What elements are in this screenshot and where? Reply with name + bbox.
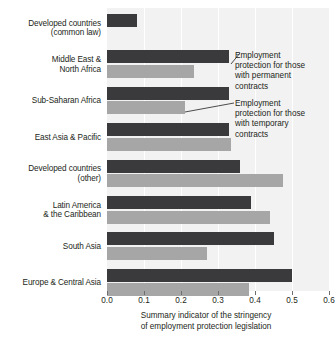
annotation-line: with temporary xyxy=(235,119,331,129)
chart-container: Developed countries(common law)Middle Ea… xyxy=(0,0,336,344)
annotation-line: protection for those xyxy=(235,61,331,71)
annotation-permanent-contracts: Employmentprotection for thosewith perma… xyxy=(235,51,331,92)
annotation-line: Employment xyxy=(235,51,331,61)
annotation-line: contracts xyxy=(235,130,331,140)
annotation-line: Employment xyxy=(235,99,331,109)
annotation-temporary-contracts: Employmentprotection for thosewith tempo… xyxy=(235,99,331,140)
annotation-line: protection for those xyxy=(235,109,331,119)
annotation-line: contracts xyxy=(235,82,331,92)
annotation-line: with permanent xyxy=(235,71,331,81)
